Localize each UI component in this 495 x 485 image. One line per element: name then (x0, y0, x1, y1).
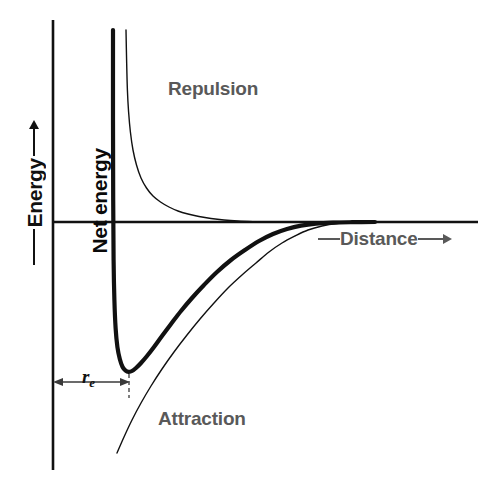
x-axis-label: Distance (340, 228, 418, 250)
potential-energy-figure: Repulsion Attraction Net energy re Dista… (0, 0, 495, 485)
arrow-right-icon (418, 234, 452, 244)
repulsion-curve (126, 30, 290, 222)
y-axis-title-group: Energy (23, 120, 45, 295)
repulsion-label: Repulsion (168, 78, 258, 100)
x-axis-leader-rule (318, 238, 340, 240)
attraction-curve (117, 222, 375, 453)
re-arrowhead-left (53, 378, 63, 386)
equilibrium-distance-label: re (82, 366, 95, 391)
x-axis-title-group: Distance (318, 228, 452, 250)
arrow-up-icon (29, 120, 39, 156)
y-axis-leader-rule (33, 229, 35, 265)
re-subscript: e (89, 375, 95, 390)
y-axis-label: Energy (24, 158, 45, 227)
net-energy-label: Net energy (89, 148, 110, 254)
attraction-label: Attraction (158, 408, 246, 430)
